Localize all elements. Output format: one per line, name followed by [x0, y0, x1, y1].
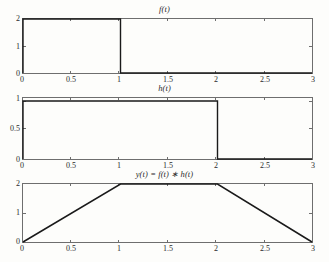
curve-y-of-t: [0, 0, 329, 262]
convolution-figure: f(t) 2 1 0 0 0.5 1 1.5 2 2.5 3: [0, 0, 329, 262]
